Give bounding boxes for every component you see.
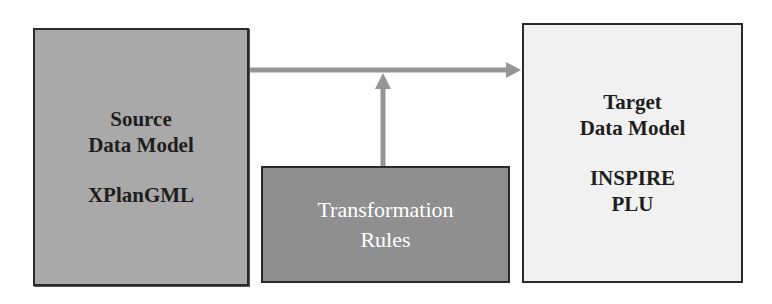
target-data-model-box: Target Data Model INSPIRE PLU xyxy=(522,23,743,283)
target-model-name-line-2: PLU xyxy=(612,191,654,217)
target-model-name-line-1: INSPIRE xyxy=(590,165,675,191)
target-title-line-1: Target xyxy=(603,89,662,115)
rules-title-line-1: Transformation xyxy=(317,195,453,225)
arrowhead-up-icon xyxy=(375,73,391,89)
target-title-line-2: Data Model xyxy=(580,115,686,141)
source-model-name: XPlanGML xyxy=(88,182,194,208)
transformation-rules-box: Transformation Rules xyxy=(261,166,510,283)
source-title-line-1: Source xyxy=(110,106,171,132)
source-title-line-2: Data Model xyxy=(88,132,194,158)
rules-title-line-2: Rules xyxy=(360,225,410,255)
source-data-model-box: Source Data Model XPlanGML xyxy=(33,28,249,286)
arrowhead-right-icon xyxy=(506,62,521,78)
